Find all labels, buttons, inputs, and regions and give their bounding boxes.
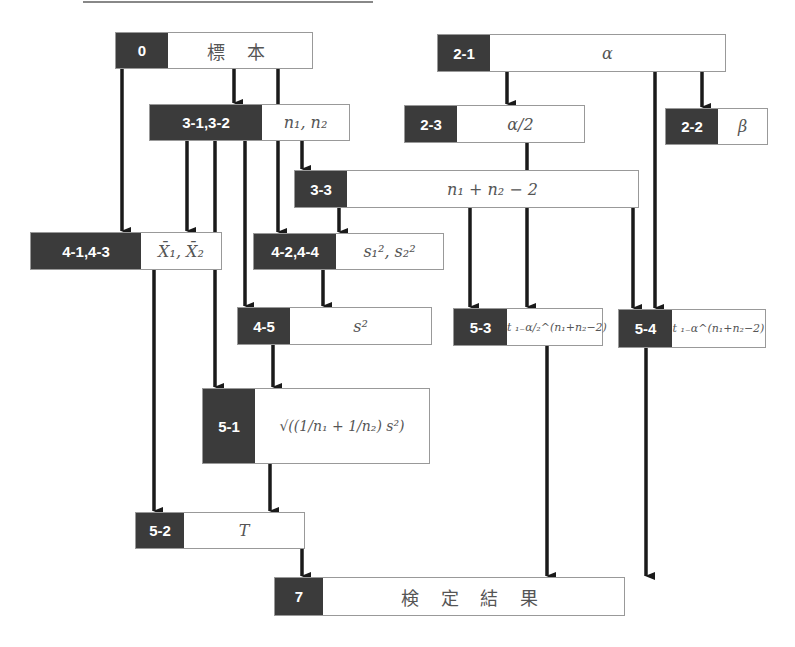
node-value: T	[184, 513, 304, 548]
node-t-two-sided: 5-3 t ₁₋α/₂^(n₁+n₂−2)	[453, 308, 603, 346]
node-value: n₁ + n₂ − 2	[347, 171, 638, 207]
node-alpha: 2-1 α	[437, 34, 726, 72]
node-sample-means: 4-1,4-3 X̄₁, X̄₂	[30, 232, 222, 270]
node-label: 4-5	[238, 308, 290, 344]
node-label: 7	[275, 578, 323, 615]
node-label: 3-1,3-2	[150, 105, 262, 140]
node-half-alpha: 2-3 α/2	[404, 105, 585, 143]
node-standard-error: 5-1 √((1/n₁ + 1/n₂) s²)	[202, 388, 430, 464]
node-label: 5-3	[454, 309, 507, 345]
node-value: n₁, n₂	[262, 105, 349, 140]
node-value: s₁², s₂²	[336, 234, 443, 269]
node-label: 5-4	[619, 310, 672, 347]
node-label: 2-1	[438, 35, 490, 71]
node-value: 標 本	[168, 33, 312, 68]
node-value: α/2	[457, 106, 584, 142]
node-value: α	[490, 35, 725, 71]
node-label: 5-2	[136, 513, 184, 548]
node-label: 4-1,4-3	[31, 233, 141, 269]
node-value: 検 定 結 果	[323, 578, 624, 615]
node-value: β	[718, 109, 767, 144]
node-t-one-sided: 5-4 t ₁₋α^(n₁+n₂−2)	[618, 309, 766, 348]
node-label: 0	[116, 33, 168, 68]
node-value: t ₁₋α^(n₁+n₂−2)	[672, 310, 765, 347]
node-degrees-of-freedom: 3-3 n₁ + n₂ − 2	[294, 170, 639, 208]
node-sample-variances: 4-2,4-4 s₁², s₂²	[253, 233, 444, 270]
node-value: s²	[290, 308, 431, 344]
top-rule	[83, 1, 373, 3]
node-t-statistic: 5-2 T	[135, 512, 305, 549]
node-label: 2-3	[405, 106, 457, 142]
node-sample-sizes: 3-1,3-2 n₁, n₂	[149, 104, 350, 141]
node-label: 2-2	[666, 109, 718, 144]
node-value: t ₁₋α/₂^(n₁+n₂−2)	[507, 309, 607, 345]
node-label: 4-2,4-4	[254, 234, 336, 269]
node-sample: 0 標 本	[115, 32, 313, 69]
node-beta: 2-2 β	[665, 108, 768, 145]
node-value: √((1/n₁ + 1/n₂) s²)	[255, 389, 429, 463]
node-pooled-variance: 4-5 s²	[237, 307, 432, 345]
node-value: X̄₁, X̄₂	[141, 233, 221, 269]
node-label: 3-3	[295, 171, 347, 207]
node-test-result: 7 検 定 結 果	[274, 577, 625, 616]
node-label: 5-1	[203, 389, 255, 463]
